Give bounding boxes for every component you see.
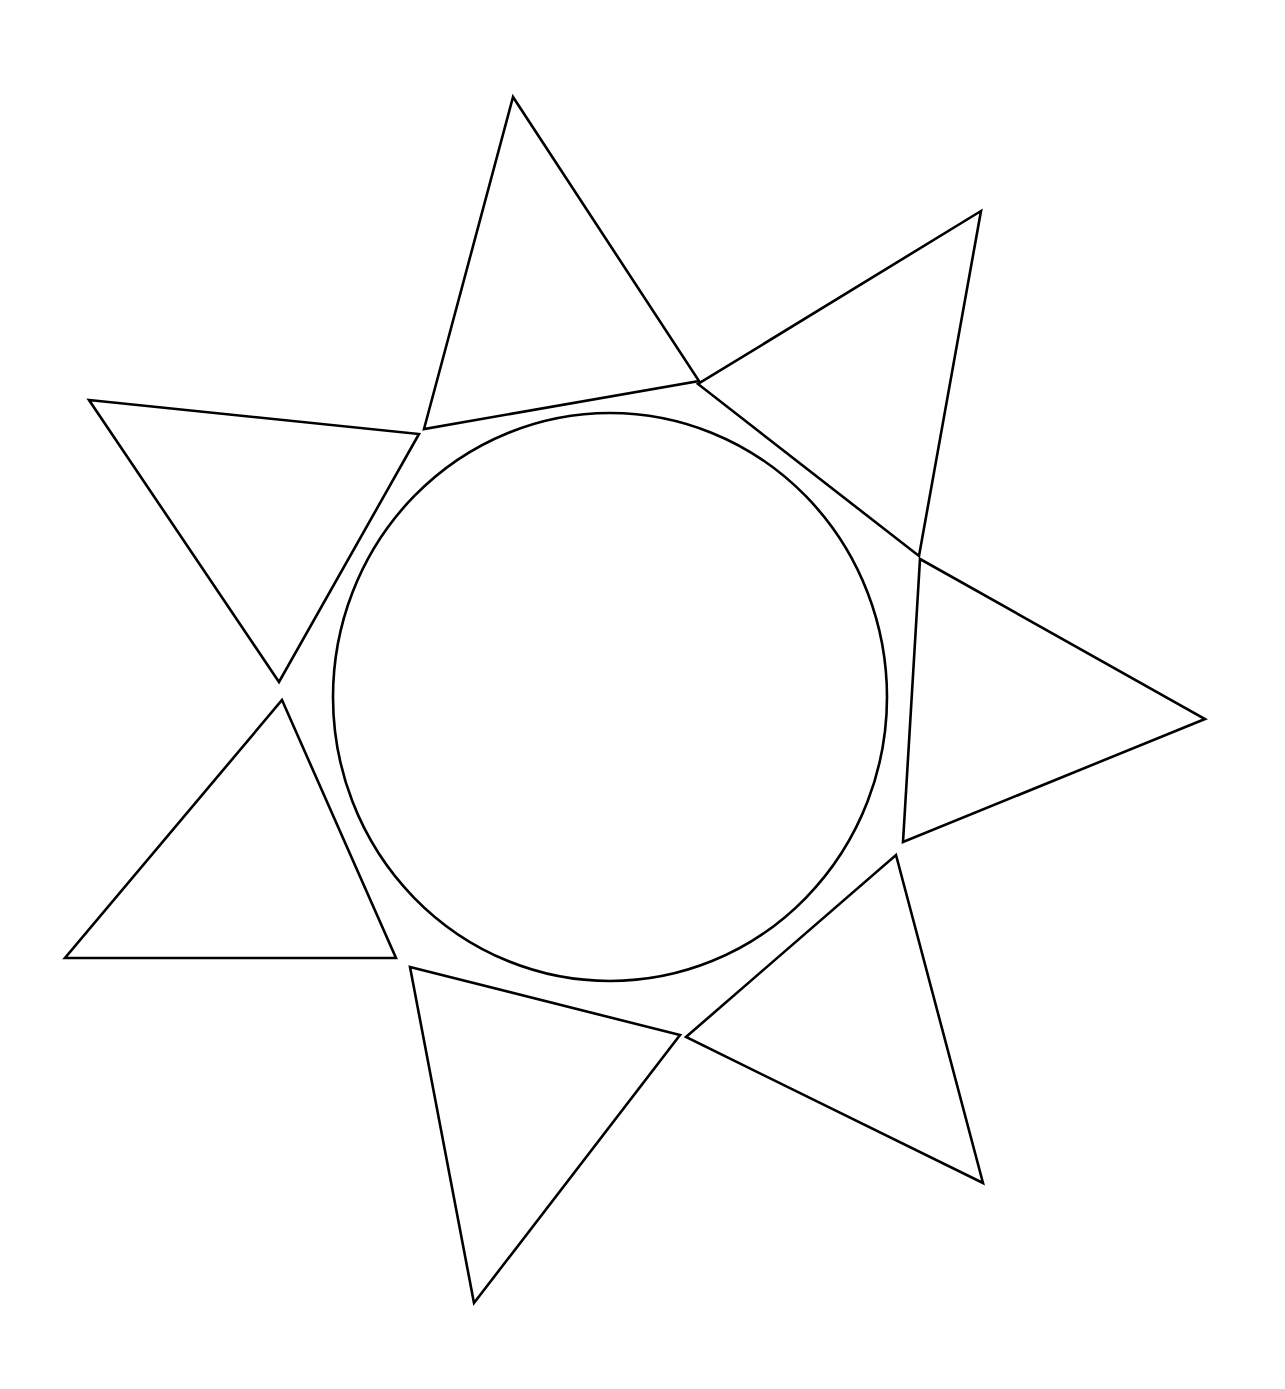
canvas-background [0,0,1285,1389]
geometric-figure-canvas [0,0,1285,1389]
